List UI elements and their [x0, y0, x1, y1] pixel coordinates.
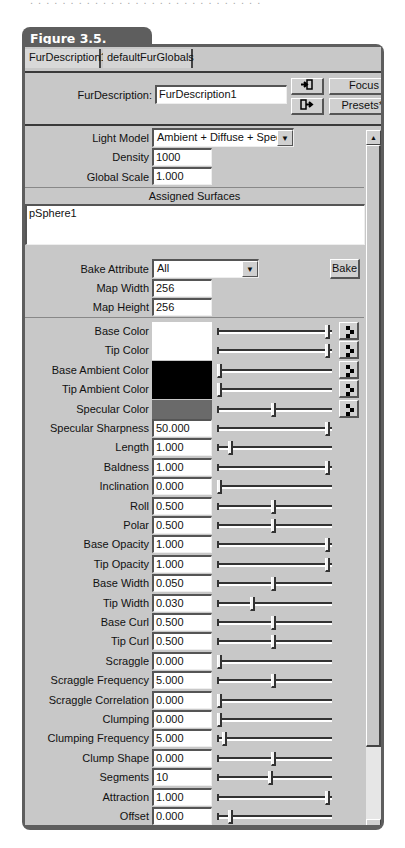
attribute-slider[interactable] — [217, 519, 332, 533]
map-texture-button[interactable] — [339, 400, 359, 418]
attribute-value-field[interactable]: 0.000 — [152, 652, 212, 670]
assigned-surfaces-list[interactable]: pSphere1 — [25, 204, 365, 245]
attribute-value-field[interactable]: 1.000 — [152, 438, 212, 456]
density-field[interactable]: 1000 — [152, 148, 212, 166]
scroll-thumb[interactable] — [366, 145, 381, 747]
attribute-value-field[interactable]: 1.000 — [152, 555, 212, 573]
furdescription-name-field[interactable]: FurDescription1 — [155, 85, 287, 104]
map-height-field[interactable]: 256 — [152, 298, 212, 316]
slider-handle[interactable] — [325, 538, 330, 552]
slider-handle[interactable] — [271, 635, 276, 649]
attribute-slider[interactable] — [217, 538, 332, 552]
slider-handle[interactable] — [268, 771, 273, 785]
attribute-slider[interactable] — [217, 480, 332, 494]
slider-handle[interactable] — [271, 519, 276, 533]
scroll-up-button[interactable]: ▲ — [366, 130, 381, 145]
map-width-field[interactable]: 256 — [152, 279, 212, 297]
slider-handle[interactable] — [271, 403, 276, 417]
slider-handle[interactable] — [217, 364, 222, 378]
attribute-slider[interactable] — [217, 635, 332, 649]
attribute-value-field[interactable]: 0.500 — [152, 613, 212, 631]
attribute-value-field[interactable]: 1.000 — [152, 535, 212, 553]
slider-handle[interactable] — [325, 344, 330, 358]
slider-handle[interactable] — [271, 500, 276, 514]
slider-handle[interactable] — [217, 480, 222, 494]
slider-handle[interactable] — [325, 791, 330, 805]
attribute-value-field[interactable]: 0.500 — [152, 516, 212, 534]
attribute-value-field[interactable]: 0.030 — [152, 594, 212, 612]
scroll-track[interactable] — [366, 747, 381, 822]
color-slider[interactable] — [217, 325, 332, 339]
slider-handle[interactable] — [271, 616, 276, 630]
attribute-value-field[interactable]: 1.000 — [152, 458, 212, 476]
attribute-value-field[interactable]: 0.000 — [152, 807, 212, 825]
attribute-value-field[interactable]: 1.000 — [152, 788, 212, 806]
slider-handle[interactable] — [228, 441, 233, 455]
color-slider[interactable] — [217, 364, 332, 378]
attribute-value-field[interactable]: 5.000 — [152, 729, 212, 747]
slider-handle[interactable] — [222, 732, 227, 746]
color-slider[interactable] — [217, 403, 332, 417]
attribute-slider[interactable] — [217, 810, 332, 824]
attribute-value-field[interactable]: 5.000 — [152, 671, 212, 689]
tab-defaultfurglobals[interactable]: defaultFurGlobals — [103, 49, 193, 68]
slider-handle[interactable] — [271, 577, 276, 591]
bake-attribute-dropdown[interactable]: All ▼ — [152, 259, 259, 278]
vertical-scrollbar[interactable]: ▲ ▼ — [366, 127, 381, 825]
attribute-value-field[interactable]: 50.000 — [152, 419, 212, 437]
color-swatch[interactable] — [152, 380, 212, 399]
bake-button[interactable]: Bake — [330, 259, 360, 279]
map-texture-button[interactable] — [339, 380, 359, 398]
focus-button[interactable]: Focus — [329, 78, 381, 95]
attribute-value-field[interactable]: 0.500 — [152, 497, 212, 515]
color-slider[interactable] — [217, 383, 332, 397]
attribute-slider[interactable] — [217, 791, 332, 805]
attribute-slider[interactable] — [217, 713, 332, 727]
attribute-value-field[interactable]: 0.500 — [152, 632, 212, 650]
color-slider[interactable] — [217, 344, 332, 358]
slider-handle[interactable] — [217, 655, 222, 669]
color-swatch[interactable] — [152, 400, 212, 419]
attribute-value-field[interactable]: 0.000 — [152, 749, 212, 767]
attribute-value-field[interactable]: 0.050 — [152, 574, 212, 592]
color-swatch[interactable] — [152, 341, 212, 360]
slider-handle[interactable] — [217, 694, 222, 708]
attribute-slider[interactable] — [217, 674, 332, 688]
slider-handle[interactable] — [250, 597, 255, 611]
map-texture-button[interactable] — [339, 341, 359, 359]
attribute-slider[interactable] — [217, 597, 332, 611]
scroll-down-button[interactable]: ▼ — [366, 819, 381, 825]
slider-handle[interactable] — [217, 713, 222, 727]
slider-handle[interactable] — [325, 558, 330, 572]
attribute-slider[interactable] — [217, 461, 332, 475]
output-connections-button[interactable] — [291, 98, 324, 115]
slider-handle[interactable] — [271, 674, 276, 688]
map-texture-button[interactable] — [339, 361, 359, 379]
presets-button[interactable]: Presets* — [329, 98, 381, 115]
attribute-slider[interactable] — [217, 500, 332, 514]
color-swatch[interactable] — [152, 361, 212, 380]
attribute-slider[interactable] — [217, 441, 332, 455]
slider-handle[interactable] — [325, 325, 330, 339]
slider-handle[interactable] — [325, 422, 330, 436]
global-scale-field[interactable]: 1.000 — [152, 167, 212, 185]
color-swatch[interactable] — [152, 322, 212, 341]
tab-furdescription1[interactable]: FurDescription1 — [25, 49, 101, 68]
slider-handle[interactable] — [325, 461, 330, 475]
attribute-value-field[interactable]: 0.000 — [152, 477, 212, 495]
list-item[interactable]: pSphere1 — [29, 207, 362, 219]
attribute-value-field[interactable]: 10 — [152, 768, 212, 786]
attribute-slider[interactable] — [217, 422, 332, 436]
light-model-dropdown[interactable]: Ambient + Diffuse + Specular ▼ — [152, 128, 294, 147]
attribute-value-field[interactable]: 0.000 — [152, 710, 212, 728]
slider-handle[interactable] — [228, 810, 233, 824]
slider-handle[interactable] — [271, 752, 276, 766]
attribute-slider[interactable] — [217, 558, 332, 572]
attribute-slider[interactable] — [217, 616, 332, 630]
attribute-slider[interactable] — [217, 771, 332, 785]
slider-handle[interactable] — [217, 383, 222, 397]
attribute-slider[interactable] — [217, 655, 332, 669]
attribute-slider[interactable] — [217, 732, 332, 746]
attribute-slider[interactable] — [217, 694, 332, 708]
map-texture-button[interactable] — [339, 322, 359, 340]
